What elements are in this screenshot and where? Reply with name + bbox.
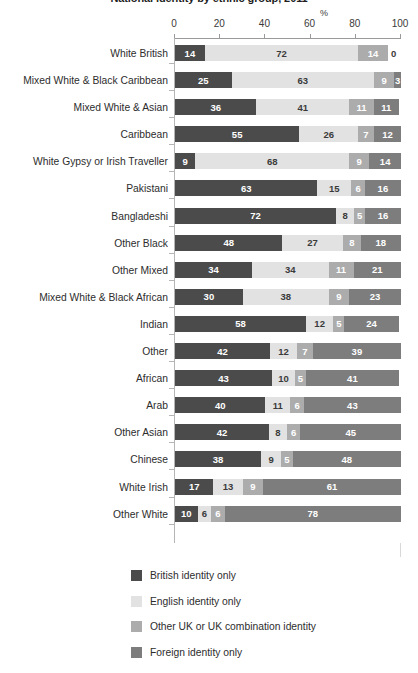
bar-segment: 5	[354, 208, 365, 224]
bar-row-label: Arab	[0, 398, 168, 414]
y-axis-tick	[169, 307, 174, 308]
bar-segment: 58	[175, 316, 306, 332]
bar-segment: 38	[243, 289, 329, 305]
bar-segment-value: 78	[308, 508, 319, 519]
bar-segment: 16	[365, 180, 401, 196]
bar-segment-value: 6	[215, 508, 220, 519]
y-axis-tick	[169, 63, 174, 64]
bar-segment: 11	[374, 99, 399, 115]
bar-segment-value: 5	[284, 454, 289, 465]
x-axis-tick-label: 0	[171, 18, 177, 29]
bar-segment: 6	[198, 506, 212, 522]
legend-item[interactable]: English identity only	[131, 589, 418, 615]
bar-segment-value: 11	[381, 102, 391, 113]
y-axis-tick	[169, 253, 174, 254]
bar-segment: 9	[175, 153, 195, 169]
bar-segment: 9	[261, 451, 281, 467]
bar-segment: 10	[175, 506, 198, 522]
bar-segment: 12	[270, 343, 297, 359]
bar-row-label: Indian	[0, 317, 168, 333]
bar-segment-value: 23	[370, 291, 381, 302]
bar-row: Bangladeshi728516	[0, 207, 418, 234]
y-axis-tick	[169, 144, 174, 145]
bar-segment: 40	[175, 397, 265, 413]
legend-item[interactable]: Foreign identity only	[131, 640, 418, 666]
bar-segment-value: 6	[294, 400, 299, 411]
bar-segment-value: 42	[217, 427, 228, 438]
legend-label: British identity only	[150, 570, 236, 581]
bar-segment: 78	[225, 506, 401, 522]
chart-root: National identity by ethnic group, 2011 …	[0, 0, 418, 673]
bar-row: African4310541	[0, 369, 418, 396]
bar-segment: 0	[388, 45, 401, 61]
bar-segment-value: 43	[347, 400, 358, 411]
bar-segment-value: 36	[210, 102, 221, 113]
bar-segment-value: 12	[314, 318, 325, 329]
bar-row-label: Bangladeshi	[0, 209, 168, 225]
bar-segment: 34	[252, 262, 329, 278]
bar-segment: 72	[205, 45, 358, 61]
bar-segment: 13	[213, 479, 242, 495]
stacked-bar: 389548	[175, 451, 401, 467]
bar-segment-value: 16	[378, 183, 389, 194]
bar-row: Arab4011643	[0, 396, 418, 423]
bar-segment-value: 25	[198, 75, 209, 86]
bar-segment-value: 11	[273, 400, 283, 411]
y-axis-tick	[169, 171, 174, 172]
stacked-bar: 428645	[175, 424, 401, 440]
bar-segment-value: 48	[341, 454, 352, 465]
bar-segment: 6	[287, 424, 300, 440]
bar-row-label: Other Black	[0, 236, 168, 252]
bar-segment: 18	[361, 235, 401, 251]
bar-segment: 41	[256, 99, 349, 115]
bar-row-label: Other Mixed	[0, 263, 168, 279]
bar-row-label: White Irish	[0, 480, 168, 496]
bar-segment-value: 63	[241, 183, 252, 194]
bar-segment: 25	[175, 72, 232, 88]
bar-segment-value: 17	[189, 481, 200, 492]
bar-segment: 8	[336, 208, 354, 224]
x-axis-tick	[310, 34, 311, 39]
bar-segment-value: 9	[250, 481, 255, 492]
bar-segment-value: 38	[280, 291, 291, 302]
x-axis-tick	[355, 34, 356, 39]
bar-segment: 63	[232, 72, 374, 88]
bar-segment-value: 42	[217, 346, 228, 357]
bar-segment-value: 13	[223, 481, 234, 492]
stacked-bar: 5812524	[175, 316, 401, 332]
bar-row: Mixed White & Asian36411111	[0, 98, 418, 125]
bar-segment: 26	[299, 126, 358, 142]
bar-segment-value: 18	[376, 237, 387, 248]
bar-segment: 12	[374, 126, 401, 142]
legend-label: English identity only	[150, 596, 241, 607]
bar-segment: 68	[195, 153, 349, 169]
bar-segment-value: 63	[297, 75, 308, 86]
bar-segment-value: 41	[297, 102, 308, 113]
bar-segment-value: 7	[363, 129, 368, 140]
bar-row-label: Caribbean	[0, 127, 168, 143]
bar-row-label: Other	[0, 344, 168, 360]
bar-row-label: White Gypsy or Irish Traveller	[0, 154, 168, 170]
legend-item[interactable]: British identity only	[131, 563, 418, 589]
bar-segment-value: 40	[215, 400, 226, 411]
bar-segment: 17	[175, 479, 213, 495]
bar-segment-value: 15	[329, 183, 340, 194]
stacked-bar: 728516	[175, 208, 401, 224]
legend-item[interactable]: Other UK or UK combination identity	[131, 614, 418, 640]
bar-segment: 14	[358, 45, 388, 61]
stacked-bar: 106678	[175, 506, 401, 522]
y-axis-tick	[169, 469, 174, 470]
bar-segment-value: 8	[342, 210, 347, 221]
bar-row: Other Mixed34341121	[0, 261, 418, 288]
bar-segment: 9	[349, 153, 369, 169]
bar-segment: 14	[175, 45, 205, 61]
legend-label: Foreign identity only	[150, 647, 242, 658]
x-axis-tick-label: 100	[392, 18, 409, 29]
y-axis-tick	[169, 334, 174, 335]
bar-segment-value: 39	[352, 346, 363, 357]
bar-segment-value: 45	[345, 427, 356, 438]
stacked-bar: 4310541	[175, 370, 401, 386]
bar-segment-value: 5	[298, 373, 303, 384]
bar-segment: 8	[269, 424, 287, 440]
y-axis-tick	[169, 361, 174, 362]
